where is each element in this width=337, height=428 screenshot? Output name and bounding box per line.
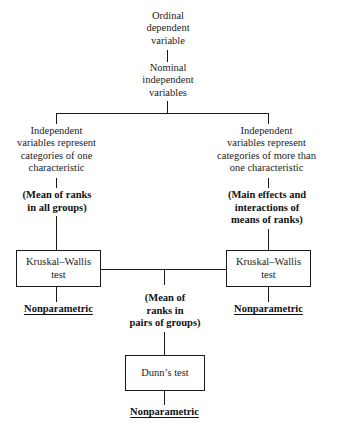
connector-left-test-to-conclusion (56, 287, 57, 302)
split-bar-horizontal (56, 113, 269, 114)
node-ordinal-dependent-variable: Ordinal dependent variable (118, 10, 218, 47)
connector-left-measure-to-test (56, 216, 57, 250)
box-kruskal-wallis-right: Kruskal–Wallis test (226, 250, 311, 287)
split-drop-left (56, 113, 57, 124)
split-drop-right (268, 113, 269, 124)
conclusion-posthoc-nonparametric: Nonparametric (112, 406, 217, 417)
connector-nominal-to-split (167, 101, 168, 113)
flowchart-diagram: Ordinal dependent variable Nominal indep… (0, 0, 337, 428)
conclusion-left-nonparametric: Nonparametric (6, 303, 111, 314)
connector-right-test-to-conclusion (268, 287, 269, 302)
posthoc-drop (164, 269, 165, 285)
connector-right-measure-to-test (268, 229, 269, 250)
connector-root-to-nominal (167, 50, 168, 62)
connector-posthoc-measure-to-dunn (164, 332, 165, 355)
conclusion-right-nonparametric: Nonparametric (216, 303, 321, 314)
connector-right-condition-to-measure (268, 178, 269, 188)
box-kruskal-wallis-left: Kruskal–Wallis test (16, 250, 101, 287)
branch-right-condition: Independent variables represent categori… (198, 125, 335, 175)
branch-left-measure: (Mean of ranks in all groups) (2, 189, 112, 214)
connector-dunn-to-conclusion (164, 391, 165, 405)
box-dunns-test: Dunn’s test (125, 355, 205, 391)
posthoc-measure: (Mean of ranks in pairs of groups) (110, 292, 220, 330)
branch-left-condition: Independent variables represent categori… (4, 125, 109, 175)
branch-right-measure: (Main effects and interactions of means … (201, 189, 333, 227)
node-nominal-independent-variables: Nominal independent variables (110, 62, 226, 99)
connector-left-condition-to-measure (56, 178, 57, 188)
